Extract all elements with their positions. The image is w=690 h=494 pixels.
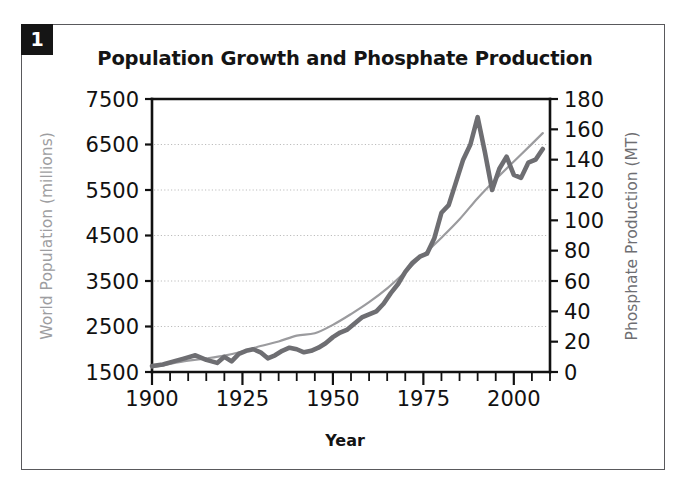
left-tick-label: 7500 bbox=[86, 88, 139, 112]
right-tick-label: 100 bbox=[564, 209, 604, 233]
right-tick-label: 160 bbox=[564, 118, 604, 142]
left-axis-tick-labels: 1500250035004500550065007500 bbox=[86, 88, 139, 385]
right-tick-label: 40 bbox=[564, 300, 591, 324]
left-tick-label: 3500 bbox=[86, 270, 139, 294]
figure-root: 1 Population Growth and Phosphate Produc… bbox=[0, 0, 690, 494]
left-tick-label: 5500 bbox=[86, 179, 139, 203]
x-tick-label: 1950 bbox=[306, 387, 359, 411]
right-tick-label: 20 bbox=[564, 330, 591, 354]
series-line-population bbox=[152, 133, 543, 367]
right-axis-title: Phosphate Production (MT) bbox=[623, 132, 641, 341]
right-axis-tick-labels: 020406080100120140160180 bbox=[564, 88, 604, 385]
x-axis-title: Year bbox=[324, 431, 365, 450]
x-tick-label: 1900 bbox=[125, 387, 178, 411]
left-tick-label: 2500 bbox=[86, 315, 139, 339]
x-axis-minor-ticks bbox=[170, 372, 550, 381]
series-line-phosphate bbox=[152, 117, 543, 366]
left-tick-label: 4500 bbox=[86, 224, 139, 248]
x-tick-label: 2000 bbox=[487, 387, 540, 411]
right-tick-label: 80 bbox=[564, 239, 591, 263]
chart-plot: 1500250035004500550065007500 02040608010… bbox=[0, 0, 690, 494]
right-tick-label: 180 bbox=[564, 88, 604, 112]
left-axis-title: World Population (millions) bbox=[38, 132, 56, 340]
x-tick-label: 1975 bbox=[397, 387, 450, 411]
left-tick-label: 6500 bbox=[86, 133, 139, 157]
right-tick-label: 60 bbox=[564, 270, 591, 294]
right-tick-label: 0 bbox=[564, 361, 577, 385]
right-tick-label: 120 bbox=[564, 179, 604, 203]
left-tick-label: 1500 bbox=[86, 361, 139, 385]
right-tick-label: 140 bbox=[564, 148, 604, 172]
x-axis-tick-labels: 19001925195019752000 bbox=[125, 387, 540, 411]
x-tick-label: 1925 bbox=[216, 387, 269, 411]
